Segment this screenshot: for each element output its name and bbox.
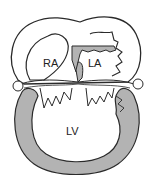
valve-plane-lower [24, 84, 130, 88]
label-la: LA [88, 57, 102, 69]
tricuspid-leaflets [40, 88, 72, 108]
label-ra: RA [43, 57, 59, 69]
heart-diagram: RA LA LV [0, 0, 159, 186]
label-lv: LV [66, 125, 79, 137]
right-annulus-knob [133, 79, 143, 89]
mitral-leaflets [86, 88, 114, 106]
left-annulus-knob [13, 81, 23, 91]
